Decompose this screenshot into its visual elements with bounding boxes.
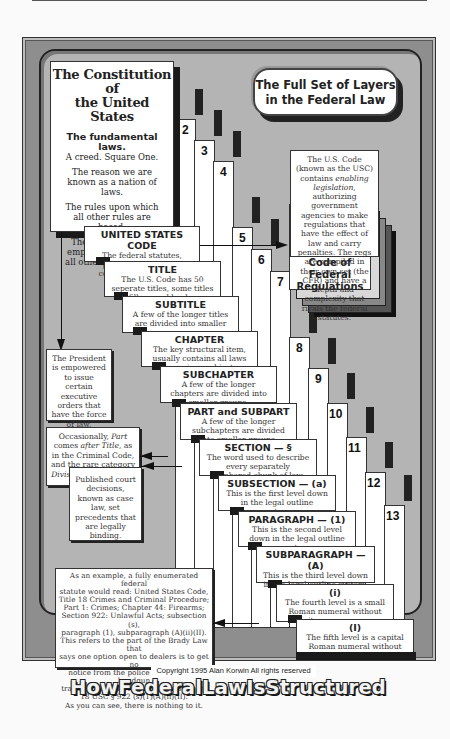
step-shadow [252, 197, 260, 223]
example-line: As you can see, there is nothing to it. [56, 702, 212, 710]
constitution-line: The reason we are known as a nation of l… [51, 167, 173, 197]
step-number: 6 [258, 253, 265, 267]
step-number: 8 [296, 341, 303, 355]
step-shadow [328, 338, 336, 364]
level-title: SUBCHAPTER [161, 369, 276, 380]
example-line: As an example, a fully enumerated federa… [56, 572, 212, 588]
step-shadow [214, 110, 222, 136]
level-title: SUBSECTION — (a) [219, 478, 335, 489]
level-title: CHAPTER [142, 334, 257, 345]
constitution-heading: The fundamental laws. [51, 132, 173, 152]
step-number: 13 [386, 509, 399, 523]
constitution-title-1: The Constitution of [51, 68, 173, 96]
level-box: SUBSECTION — (a)This is the first level … [218, 475, 336, 511]
level-title: SUBTITLE [123, 299, 238, 310]
level-title: TITLE [105, 264, 220, 275]
staircase-base-shadow [296, 652, 416, 660]
step-shadow [195, 89, 203, 115]
president-note: The President is empowered to issue cert… [46, 349, 112, 421]
arrow-right-icon [276, 241, 288, 249]
step-shadow [347, 373, 355, 399]
step-number: 10 [329, 407, 342, 421]
step-shadow [233, 131, 241, 157]
step-shadow [385, 442, 393, 468]
constitution-to-president-line [61, 232, 62, 348]
level-title: PART and SUBPART [181, 406, 296, 417]
example-box: As an example, a fully enumerated federa… [55, 568, 213, 668]
part-note-em: after Title [81, 441, 119, 450]
top-rule [32, 0, 427, 1]
step-number: 3 [201, 144, 208, 158]
constitution-title-2: the United States [51, 96, 173, 124]
footer-title: HowFederalLawIsStructured [22, 676, 434, 699]
title-line-2: in the Federal Law [255, 93, 396, 108]
title-line-1: The Full Set of Layers [255, 78, 396, 93]
constitution-line: A creed. Square One. [51, 152, 173, 162]
part-note-em: Part [111, 432, 127, 441]
level-title: PARAGRAPH — (1) [239, 514, 355, 525]
level-title: (I) [297, 622, 413, 633]
level-box: SUBPARAGRAPH — (A)This is the third leve… [256, 546, 375, 583]
step-shadow [366, 407, 374, 433]
arrow-left-icon [142, 462, 154, 470]
caselaw-note: Published court decisions, known as case… [69, 467, 142, 541]
cfr-description: The U.S. Code (known as the USC) contain… [290, 150, 379, 257]
level-title: SECTION — § [200, 442, 316, 453]
diagram-title: The Full Set of Layers in the Federal La… [253, 68, 398, 116]
constitution-box: The Constitution of the United States Th… [50, 61, 174, 232]
level-box: SUBCHAPTERA few of the longer chapters a… [160, 366, 277, 403]
step-number: 2 [182, 123, 189, 137]
example-line: Section 922: Unlawful Acts; subsection (… [56, 612, 212, 628]
arrow-left-icon [213, 619, 225, 627]
arrow-left-icon [140, 452, 152, 460]
part-note-text: comes [54, 441, 81, 450]
example-line: This refers to the part of the Brady Law… [56, 637, 212, 653]
step-shadow [404, 475, 412, 501]
step-number: 4 [220, 165, 227, 179]
step-number: 12 [367, 476, 380, 490]
level-title: UNITED STATES CODE [85, 229, 199, 251]
part-note-text: Occasionally, [59, 432, 112, 441]
cfr-text: , authorizing government agencies to mak… [298, 183, 372, 322]
step-number: 5 [239, 231, 246, 245]
level-title: (i) [277, 587, 393, 598]
step-number: 9 [315, 372, 322, 386]
step-number: 11 [348, 441, 361, 455]
step-number: 7 [277, 275, 284, 289]
level-title: SUBPARAGRAPH — (A) [257, 549, 374, 571]
